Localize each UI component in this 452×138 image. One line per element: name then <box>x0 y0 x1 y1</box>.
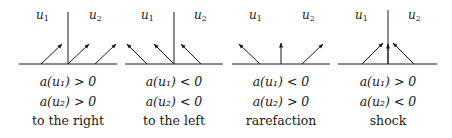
condition-a-u2: a(u₂) > 0 <box>226 94 336 109</box>
panel-caption: to the right <box>13 113 123 128</box>
characteristic-arrow <box>127 44 147 64</box>
condition-a-u1: a(u₁) < 0 <box>119 74 229 89</box>
panel-caption: to the left <box>119 113 229 128</box>
characteristic-arrow <box>362 43 383 64</box>
state-label-u1: u1 <box>249 8 262 23</box>
characteristic-arrow <box>239 44 260 64</box>
state-label-u2: u2 <box>408 8 421 23</box>
panel-caption: shock <box>333 113 443 128</box>
characteristic-arrow <box>302 44 323 64</box>
characteristic-arrow <box>154 44 174 64</box>
panel-rarefaction <box>232 43 330 64</box>
state-label-u2: u2 <box>89 8 102 23</box>
condition-a-u2: a(u₂) < 0 <box>333 94 443 109</box>
condition-a-u2: a(u₂) > 0 <box>13 94 123 109</box>
condition-a-u1: a(u₁) > 0 <box>13 74 123 89</box>
state-label-u1: u1 <box>36 8 49 23</box>
characteristic-arrow <box>95 44 116 64</box>
state-label-u2: u2 <box>194 8 207 23</box>
characteristic-arrow <box>68 44 89 64</box>
characteristic-arrow <box>181 44 201 64</box>
condition-a-u1: a(u₁) < 0 <box>226 74 336 89</box>
panel-caption: rarefaction <box>226 113 336 128</box>
state-label-u1: u1 <box>355 8 368 23</box>
characteristic-arrow <box>393 43 414 64</box>
panel-to-the-right <box>19 12 117 64</box>
state-label-u1: u1 <box>141 8 154 23</box>
state-label-u2: u2 <box>302 8 315 23</box>
condition-a-u2: a(u₂) < 0 <box>119 94 229 109</box>
characteristic-arrow <box>41 44 62 64</box>
panel-to-the-left <box>125 12 223 64</box>
condition-a-u1: a(u₁) > 0 <box>333 74 443 89</box>
panel-shock <box>338 10 437 64</box>
